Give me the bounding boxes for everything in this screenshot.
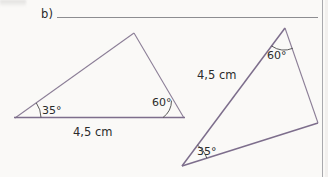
side-label-left-base: 4,5 cm	[73, 125, 112, 139]
geometry-figures: 35° 60° 4,5 cm 35° 60° 4,5 cm	[0, 0, 328, 177]
angle-label-left-35: 35°	[42, 104, 62, 117]
angle-arc-left-35	[36, 103, 41, 118]
worksheet-page: b) 35° 60° 4,5 cm	[0, 0, 328, 177]
triangle-left: 35° 60° 4,5 cm	[14, 33, 185, 139]
side-label-right-a: 4,5 cm	[197, 68, 236, 82]
triangle-right-side-b	[285, 28, 318, 123]
angle-label-right-60: 60°	[267, 49, 287, 62]
triangle-right: 35° 60° 4,5 cm	[182, 28, 318, 166]
angle-label-left-60: 60°	[152, 96, 172, 109]
angle-label-right-35: 35°	[197, 145, 217, 158]
triangle-left-side-a	[15, 33, 134, 118]
